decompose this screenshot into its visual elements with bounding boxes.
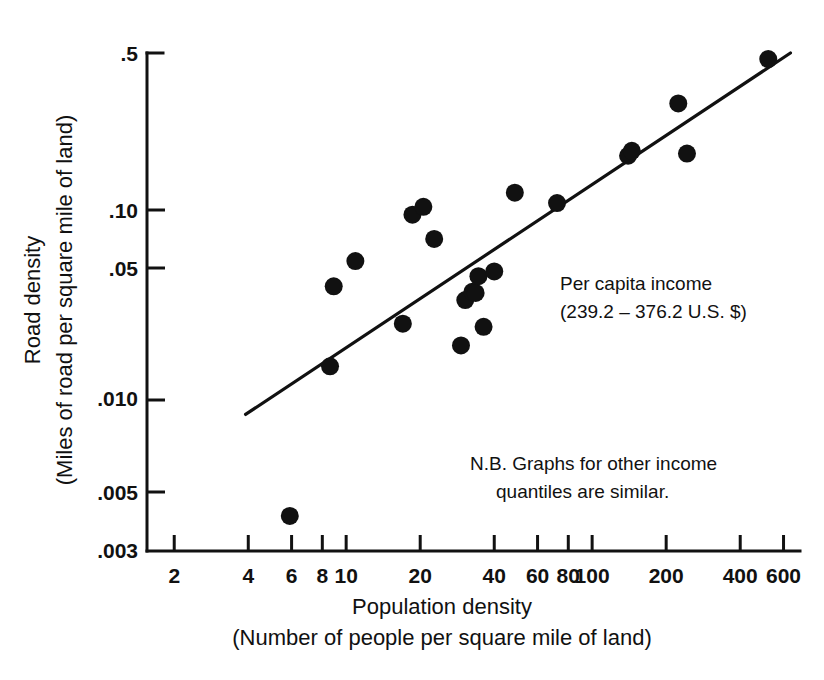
data-point (281, 507, 299, 525)
data-point (469, 267, 487, 285)
y-ticklabel-0: .5 (120, 42, 138, 65)
data-point (485, 262, 503, 280)
nb-note-line-1: N.B. Graphs for other income (470, 453, 717, 474)
data-point (623, 142, 641, 160)
y-ticklabel-5: .003 (97, 539, 138, 562)
x-ticklabel-200: 200 (649, 564, 684, 587)
data-point (669, 94, 687, 112)
y-ticklabel-2: .05 (109, 257, 139, 280)
data-point (548, 194, 566, 212)
x-ticklabel-10: 10 (334, 564, 357, 587)
data-point (759, 50, 777, 68)
nb-note-line-2: quantiles are similar. (496, 481, 669, 502)
per-capita-income-note: Per capita income (239.2 – 376.2 U.S. $) (560, 273, 747, 322)
x-ticklabel-4: 4 (242, 564, 254, 587)
data-point (506, 184, 524, 202)
x-ticklabel-2: 2 (168, 564, 180, 587)
x-ticklabel-40: 40 (483, 564, 506, 587)
data-point (467, 284, 485, 302)
x-ticklabel-8: 8 (316, 564, 328, 587)
data-point (325, 277, 343, 295)
nb-note: N.B. Graphs for other income quantiles a… (470, 453, 717, 502)
figure-container: .5 .10 .05 .010 .005 .003 24681020406080… (0, 0, 824, 680)
y-axis-tick-labels: .5 .10 .05 .010 .005 .003 (97, 42, 138, 562)
y-ticklabel-4: .005 (97, 481, 138, 504)
data-point (475, 318, 493, 336)
x-ticklabel-400: 400 (723, 564, 758, 587)
y-axis-subtitle: (Miles of road per square mile of land) (52, 115, 77, 486)
data-point (414, 198, 432, 216)
data-point (394, 315, 412, 333)
data-point (346, 252, 364, 270)
data-point (452, 336, 470, 354)
data-point (425, 230, 443, 248)
per-capita-income-line-2: (239.2 – 376.2 U.S. $) (560, 301, 747, 322)
data-point (321, 357, 339, 375)
x-axis-ticks (174, 535, 783, 551)
y-axis-ticks (147, 210, 165, 492)
x-ticklabel-60: 60 (526, 564, 549, 587)
x-ticklabel-100: 100 (575, 564, 610, 587)
y-ticklabel-1: .10 (109, 199, 138, 222)
scatter-plot: .5 .10 .05 .010 .005 .003 24681020406080… (0, 0, 824, 680)
x-ticklabel-600: 600 (766, 564, 801, 587)
x-ticklabel-6: 6 (286, 564, 298, 587)
x-axis-subtitle: (Number of people per square mile of lan… (232, 625, 651, 650)
x-axis-title: Population density (352, 594, 532, 619)
x-axis-tick-labels: 24681020406080100200400600 (168, 564, 801, 587)
data-point (678, 145, 696, 163)
y-axis-title: Road density (20, 236, 45, 364)
per-capita-income-line-1: Per capita income (560, 273, 712, 294)
y-ticklabel-3: .010 (97, 387, 138, 410)
x-ticklabel-20: 20 (409, 564, 432, 587)
